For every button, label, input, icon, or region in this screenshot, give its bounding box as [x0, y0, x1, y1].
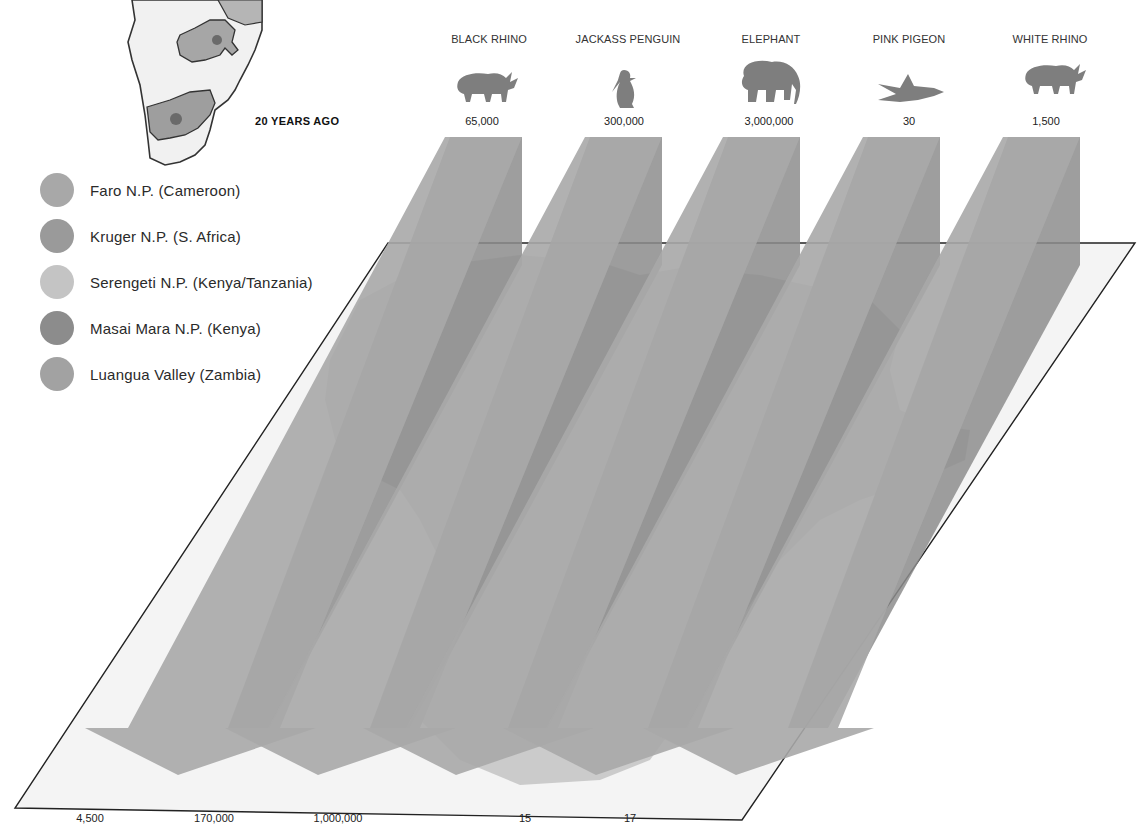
- species-name-white-rhino: WHITE RHINO: [980, 33, 1120, 45]
- legend-swatch: [40, 265, 74, 299]
- species-name-jackass-penguin: JACKASS PENGUIN: [558, 33, 698, 45]
- legend-label: Faro N.P. (Cameroon): [90, 182, 240, 199]
- legend-item: Kruger N.P. (S. Africa): [40, 213, 313, 259]
- legend-item: Luangua Valley (Zambia): [40, 351, 313, 397]
- now-value-jackass-penguin: 170,000: [144, 812, 284, 824]
- then-value-white-rhino: 1,500: [976, 115, 1116, 127]
- legend-item: Masai Mara N.P. (Kenya): [40, 305, 313, 351]
- rhino-icon: [457, 72, 518, 102]
- then-value-jackass-penguin: 300,000: [554, 115, 694, 127]
- then-value-pink-pigeon: 30: [839, 115, 979, 127]
- legend-label: Kruger N.P. (S. Africa): [90, 228, 241, 245]
- legend-label: Luangua Valley (Zambia): [90, 366, 261, 383]
- legend-swatch: [40, 219, 74, 253]
- now-value-white-rhino: 17: [560, 812, 700, 824]
- penguin-icon: [612, 70, 636, 108]
- animal-icons: [457, 61, 1086, 108]
- elephant-icon: [742, 61, 800, 104]
- then-value-elephant: 3,000,000: [699, 115, 839, 127]
- pigeon-icon: [878, 74, 944, 102]
- species-name-elephant: ELEPHANT: [701, 33, 841, 45]
- row-label-twenty-years-ago: 20 YEARS AGO: [255, 115, 339, 127]
- legend-label: Masai Mara N.P. (Kenya): [90, 320, 261, 337]
- legend-label: Serengeti N.P. (Kenya/Tanzania): [90, 274, 313, 291]
- park-legend: Faro N.P. (Cameroon) Kruger N.P. (S. Afr…: [40, 167, 313, 397]
- legend-swatch: [40, 357, 74, 391]
- legend-item: Faro N.P. (Cameroon): [40, 167, 313, 213]
- legend-item: Serengeti N.P. (Kenya/Tanzania): [40, 259, 313, 305]
- species-name-black-rhino: BLACK RHINO: [419, 33, 559, 45]
- then-value-black-rhino: 65,000: [412, 115, 552, 127]
- southern-africa-inset-map: [128, 0, 262, 165]
- species-name-pink-pigeon: PINK PIGEON: [839, 33, 979, 45]
- legend-swatch: [40, 311, 74, 345]
- now-value-elephant: 1,000,000: [268, 812, 408, 824]
- rhino-icon: [1025, 64, 1086, 94]
- now-value-black-rhino: 4,500: [20, 812, 160, 824]
- legend-swatch: [40, 173, 74, 207]
